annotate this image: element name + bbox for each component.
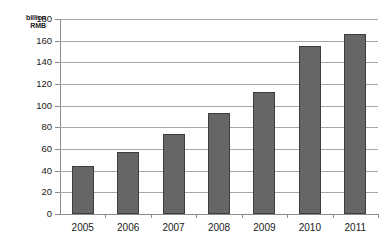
- x-axis-tick: [333, 214, 334, 218]
- gridline: [60, 62, 378, 63]
- x-axis-tick-label: 2010: [287, 222, 333, 233]
- plot-area: [60, 19, 378, 214]
- y-axis-tick-label: 80: [8, 122, 52, 132]
- x-axis-tick: [378, 214, 379, 218]
- y-axis-tick-label: 100: [8, 101, 52, 111]
- x-axis-tick: [242, 214, 243, 218]
- y-axis-tick-label: 40: [8, 166, 52, 176]
- gridline: [60, 84, 378, 85]
- y-axis-tick: [55, 62, 60, 63]
- bar: [117, 152, 139, 214]
- bar: [299, 46, 321, 214]
- y-axis-tick-label: 60: [8, 144, 52, 154]
- x-axis-tick-label: 2007: [151, 222, 197, 233]
- x-axis-tick-label: 2009: [241, 222, 287, 233]
- y-axis-tick: [55, 84, 60, 85]
- y-axis-tick: [55, 192, 60, 193]
- x-axis-tick-label: 2008: [196, 222, 242, 233]
- bar: [344, 34, 366, 214]
- y-axis-tick-label: 120: [8, 79, 52, 89]
- bar: [208, 113, 230, 214]
- y-axis-tick-label: 20: [8, 187, 52, 197]
- y-axis-tick: [55, 149, 60, 150]
- gridline: [60, 106, 378, 107]
- y-axis-tick-label: 0: [8, 209, 52, 219]
- x-axis-tick: [151, 214, 152, 218]
- gridline: [60, 19, 378, 20]
- y-axis-tick-label: 140: [8, 57, 52, 67]
- x-axis-tick-label: 2006: [105, 222, 151, 233]
- x-axis-tick: [105, 214, 106, 218]
- y-axis-tick-label: 160: [8, 36, 52, 46]
- bar: [253, 92, 275, 214]
- gridline: [60, 214, 378, 215]
- y-axis-tick: [55, 127, 60, 128]
- bar: [163, 134, 185, 214]
- x-axis-tick-label: 2011: [332, 222, 378, 233]
- y-axis-tick-label: 180: [8, 14, 52, 24]
- y-axis-tick: [55, 106, 60, 107]
- gridline: [60, 41, 378, 42]
- bar: [72, 166, 94, 214]
- x-axis-tick: [196, 214, 197, 218]
- x-axis-tick: [287, 214, 288, 218]
- y-axis-tick: [55, 171, 60, 172]
- y-axis-tick: [55, 41, 60, 42]
- x-axis-tick-label: 2005: [60, 222, 106, 233]
- y-axis-tick: [55, 214, 60, 215]
- y-axis-tick: [55, 19, 60, 20]
- bar-chart: billion RMB 1801601401201008060402002005…: [0, 0, 392, 250]
